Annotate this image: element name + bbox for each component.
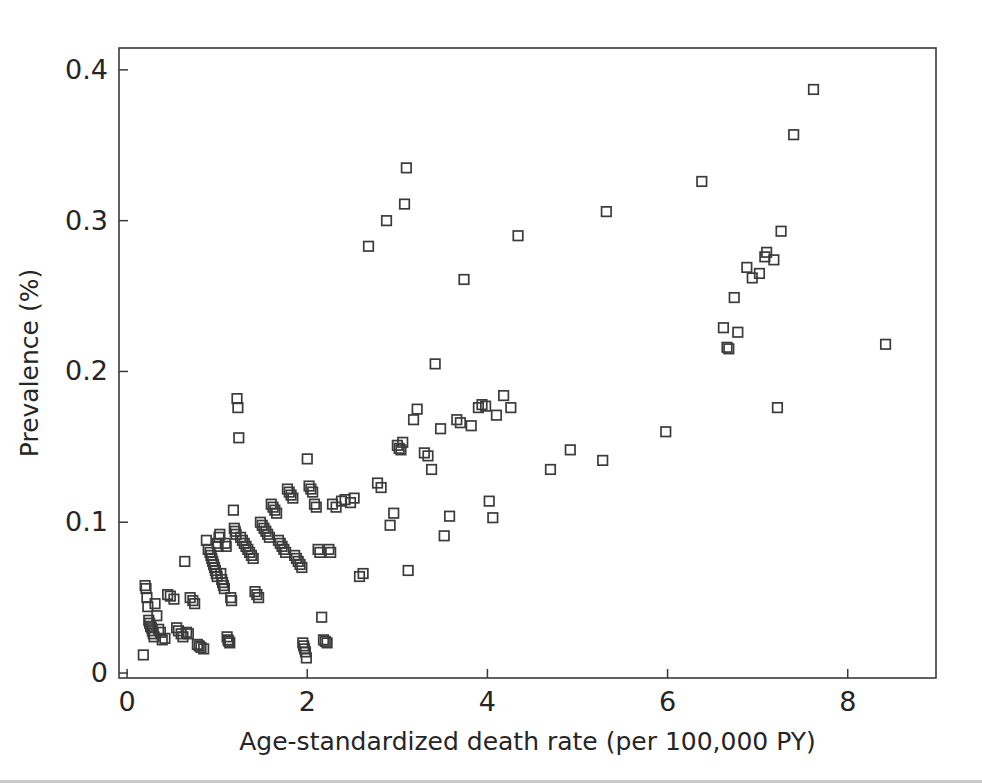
data-point-marker xyxy=(439,531,449,541)
data-point-marker xyxy=(742,263,752,273)
x-tick-label: 6 xyxy=(659,686,676,717)
data-point-marker xyxy=(773,403,783,413)
data-point-marker xyxy=(436,424,446,434)
data-point-marker xyxy=(566,445,576,455)
y-tick-label: 0.4 xyxy=(65,54,108,85)
data-point-marker xyxy=(513,231,523,241)
x-tick-label: 8 xyxy=(839,686,856,717)
data-point-marker xyxy=(358,569,368,579)
y-axis-title: Prevalence (%) xyxy=(15,269,44,457)
data-point-marker xyxy=(139,650,149,660)
scatter-plot-figure: 0246800.10.20.30.4Age-standardized death… xyxy=(0,0,982,783)
data-point-marker xyxy=(661,427,671,437)
data-point-marker xyxy=(602,207,612,217)
data-point-marker xyxy=(719,323,729,333)
data-point-marker xyxy=(459,275,469,285)
data-point-marker xyxy=(881,340,891,350)
x-tick-label: 0 xyxy=(119,686,136,717)
x-tick-label: 2 xyxy=(299,686,316,717)
data-point-marker xyxy=(733,327,743,337)
x-tick-label: 4 xyxy=(479,686,496,717)
y-tick-label: 0.3 xyxy=(65,205,108,236)
y-tick-label: 0.2 xyxy=(65,355,108,386)
y-tick-label: 0 xyxy=(91,657,108,688)
data-point-marker xyxy=(776,226,786,236)
plot-canvas: 0246800.10.20.30.4Age-standardized death… xyxy=(0,0,982,783)
data-point-marker xyxy=(809,85,819,95)
data-point-marker xyxy=(303,454,313,464)
data-point-marker xyxy=(385,521,395,531)
data-point-marker xyxy=(697,177,707,187)
axes-frame xyxy=(119,48,936,678)
data-point-marker xyxy=(317,612,327,622)
data-point-marker xyxy=(232,394,242,404)
data-point-marker xyxy=(202,536,212,546)
data-point-marker xyxy=(389,508,399,518)
data-point-marker xyxy=(364,242,374,252)
data-point-marker xyxy=(506,403,515,413)
data-point-marker xyxy=(546,465,556,475)
data-point-marker xyxy=(598,456,608,466)
data-point-marker xyxy=(466,421,476,431)
x-axis: 02468 xyxy=(119,669,857,717)
data-point-marker xyxy=(233,403,243,413)
data-point-marker xyxy=(229,505,239,515)
data-point-marker xyxy=(355,572,365,582)
data-point-marker xyxy=(328,499,338,509)
data-point-marker xyxy=(409,415,419,425)
data-point-marker xyxy=(400,199,410,209)
x-axis-title: Age-standardized death rate (per 100,000… xyxy=(239,727,816,756)
data-series-0 xyxy=(139,85,891,663)
data-point-marker xyxy=(423,451,433,461)
data-point-marker xyxy=(452,415,462,425)
data-point-marker xyxy=(180,557,190,567)
data-point-marker xyxy=(430,359,440,369)
data-point-marker xyxy=(484,496,494,506)
data-point-marker xyxy=(729,293,739,303)
y-tick-label: 0.1 xyxy=(65,506,108,537)
data-point-marker xyxy=(403,566,413,576)
data-point-marker xyxy=(143,602,153,612)
data-point-marker xyxy=(789,130,799,140)
data-point-marker xyxy=(234,433,244,443)
data-point-marker xyxy=(420,448,430,458)
data-point-marker xyxy=(492,410,502,420)
data-point-marker xyxy=(499,391,509,401)
data-point-marker xyxy=(456,418,466,428)
data-point-marker xyxy=(427,465,437,475)
data-point-marker xyxy=(382,216,392,226)
data-point-marker xyxy=(488,513,498,523)
data-point-marker xyxy=(402,163,412,173)
data-point-marker xyxy=(412,404,422,414)
data-point-marker xyxy=(445,511,455,521)
